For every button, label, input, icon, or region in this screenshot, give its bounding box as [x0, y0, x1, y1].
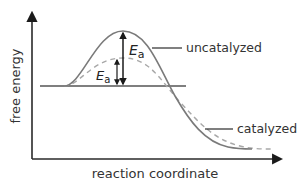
x-axis-label: reaction coordinate — [92, 166, 219, 181]
catalyzed-label: catalyzed — [237, 121, 297, 136]
ea-catalyzed-label: Ea — [96, 68, 110, 85]
energy-diagram: free energy reaction coordinate Ea Ea un… — [0, 0, 301, 185]
uncatalyzed-label: uncatalyzed — [186, 40, 262, 55]
y-axis-label: free energy — [8, 48, 23, 123]
